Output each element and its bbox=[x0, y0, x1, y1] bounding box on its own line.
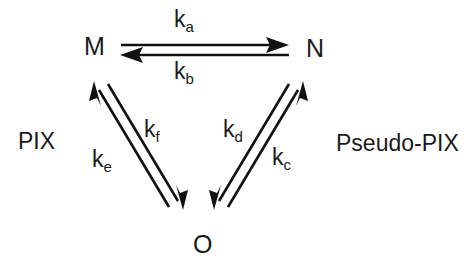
rate-subscript-ke: e bbox=[104, 158, 112, 175]
arrowhead-ke bbox=[89, 81, 101, 106]
rate-subscript-kf: f bbox=[156, 128, 160, 145]
region-label-pix: PIX bbox=[18, 130, 55, 153]
rate-subscript-kc: c bbox=[284, 156, 292, 173]
rate-label-ke: ke bbox=[92, 148, 112, 171]
arrow-shaft-kf bbox=[108, 84, 178, 201]
arrowhead-kc bbox=[296, 81, 308, 106]
arrow-m-to-n bbox=[121, 37, 289, 53]
rate-symbol-ke: k bbox=[92, 146, 104, 172]
rate-subscript-ka: a bbox=[186, 18, 194, 35]
node-label-m: M bbox=[84, 34, 105, 59]
node-label-n: N bbox=[306, 36, 324, 61]
arrowhead-kf bbox=[176, 185, 188, 210]
kinetic-scheme-diagram: M N O PIX Pseudo-PIX ka kb kc kd ke kf bbox=[0, 0, 471, 277]
rate-symbol-kb: k bbox=[174, 58, 186, 84]
arrowhead-kd bbox=[209, 185, 221, 210]
rate-label-kf: kf bbox=[144, 118, 160, 141]
rate-label-kd: kd bbox=[223, 118, 243, 141]
rate-label-ka: ka bbox=[174, 8, 194, 31]
arrow-m-to-o bbox=[108, 84, 188, 210]
rate-subscript-kb: b bbox=[186, 70, 194, 87]
arrow-shaft-kd bbox=[219, 84, 289, 201]
rate-label-kb: kb bbox=[174, 60, 194, 83]
rate-symbol-ka: k bbox=[174, 6, 186, 32]
rate-symbol-kf: k bbox=[144, 116, 156, 142]
rate-symbol-kd: k bbox=[223, 116, 235, 142]
rate-label-kc: kc bbox=[272, 146, 291, 169]
region-label-pseudo-pix: Pseudo-PIX bbox=[336, 132, 459, 155]
rate-symbol-kc: k bbox=[272, 144, 284, 170]
arrow-n-to-m bbox=[120, 47, 289, 63]
node-label-o: O bbox=[193, 232, 212, 257]
rate-subscript-kd: d bbox=[235, 128, 243, 145]
